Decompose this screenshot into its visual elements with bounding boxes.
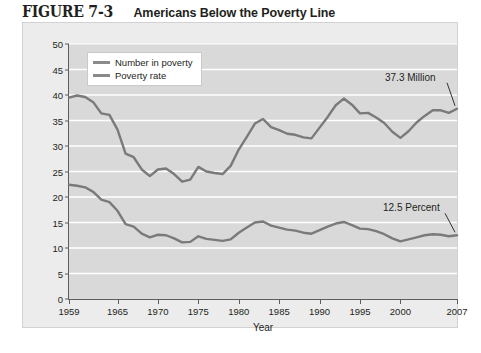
annotation-leader-line xyxy=(445,213,455,232)
legend-label: Poverty rate xyxy=(115,70,166,81)
y-tick-label: 10 xyxy=(52,243,63,254)
y-tick-mark xyxy=(65,171,69,172)
x-tick-label: 1995 xyxy=(349,306,370,317)
x-tick-mark xyxy=(320,299,321,304)
x-tick-mark xyxy=(69,299,70,304)
y-tick-label: 5 xyxy=(58,268,63,279)
x-tick-label: 1985 xyxy=(269,306,290,317)
x-tick-mark xyxy=(118,299,119,304)
x-tick-label: 2007 xyxy=(446,306,467,317)
y-tick-mark xyxy=(65,146,69,147)
y-tick-label: 40 xyxy=(52,90,63,101)
x-tick-label: 2000 xyxy=(390,306,411,317)
chart-card: Numbers in millions, rates in percent 05… xyxy=(22,22,458,328)
x-tick-label: 1990 xyxy=(309,306,330,317)
annotation-leader-line xyxy=(447,83,455,106)
y-tick-label: 0 xyxy=(58,294,63,305)
x-tick-mark xyxy=(239,299,240,304)
x-tick-mark xyxy=(360,299,361,304)
y-tick-label: 35 xyxy=(52,115,63,126)
y-tick-mark xyxy=(65,222,69,223)
figure-title: Americans Below the Poverty Line xyxy=(133,6,335,20)
x-tick-label: 1970 xyxy=(147,306,168,317)
legend-swatch-icon xyxy=(93,74,110,77)
y-tick-label: 50 xyxy=(52,39,63,50)
x-tick-label: 1980 xyxy=(228,306,249,317)
x-axis-label: Year xyxy=(69,322,457,333)
annotation-number-in-poverty: 37.3 Million xyxy=(385,72,436,83)
x-tick-label: 1975 xyxy=(188,306,209,317)
x-tick-mark xyxy=(457,299,458,304)
y-tick-label: 15 xyxy=(52,217,63,228)
figure-number: FIGURE 7-3 xyxy=(22,2,113,21)
y-tick-label: 25 xyxy=(52,166,63,177)
y-tick-label: 45 xyxy=(52,64,63,75)
y-tick-mark xyxy=(65,69,69,70)
legend-swatch-icon xyxy=(93,61,110,64)
y-tick-mark xyxy=(65,44,69,45)
legend-label: Number in poverty xyxy=(115,57,193,68)
annotation-poverty-rate: 12.5 Percent xyxy=(383,202,440,213)
y-tick-mark xyxy=(65,95,69,96)
y-tick-mark xyxy=(65,273,69,274)
x-tick-mark xyxy=(400,299,401,304)
y-tick-mark xyxy=(65,120,69,121)
x-tick-mark xyxy=(198,299,199,304)
legend-item-number-in-poverty: Number in poverty xyxy=(93,57,193,68)
y-tick-label: 20 xyxy=(52,192,63,203)
figure-container: FIGURE 7-3 Americans Below the Poverty L… xyxy=(0,0,481,353)
chart-legend: Number in poverty Poverty rate xyxy=(87,52,202,86)
x-tick-label: 1965 xyxy=(107,306,128,317)
figure-title-row: FIGURE 7-3 Americans Below the Poverty L… xyxy=(22,2,335,21)
x-tick-mark xyxy=(158,299,159,304)
plot-area: 05101520253035404550 1959196519701975198… xyxy=(68,44,457,300)
y-tick-mark xyxy=(65,197,69,198)
y-tick-label: 30 xyxy=(52,141,63,152)
x-tick-mark xyxy=(279,299,280,304)
legend-item-poverty-rate: Poverty rate xyxy=(93,70,193,81)
y-tick-mark xyxy=(65,248,69,249)
x-tick-label: 1959 xyxy=(58,306,79,317)
